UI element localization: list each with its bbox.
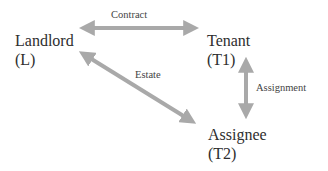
- assignment-label: Assignment: [256, 82, 306, 94]
- tenant-name: Tenant: [207, 31, 250, 50]
- estate-label: Estate: [135, 69, 161, 81]
- contract-label: Contract: [111, 9, 147, 21]
- assignee-name: Assignee: [208, 125, 267, 144]
- lease-relationship-diagram: Contract Estate Assignment Landlord (L) …: [0, 0, 328, 171]
- assignee-abbr: (T2): [208, 144, 267, 163]
- tenant-abbr: (T1): [207, 50, 250, 69]
- landlord-abbr: (L): [15, 50, 74, 69]
- landlord-name: Landlord: [15, 31, 74, 50]
- assignee-node: Assignee (T2): [208, 125, 267, 163]
- estate-arrow: [85, 55, 190, 120]
- landlord-node: Landlord (L): [15, 31, 74, 69]
- tenant-node: Tenant (T1): [207, 31, 250, 69]
